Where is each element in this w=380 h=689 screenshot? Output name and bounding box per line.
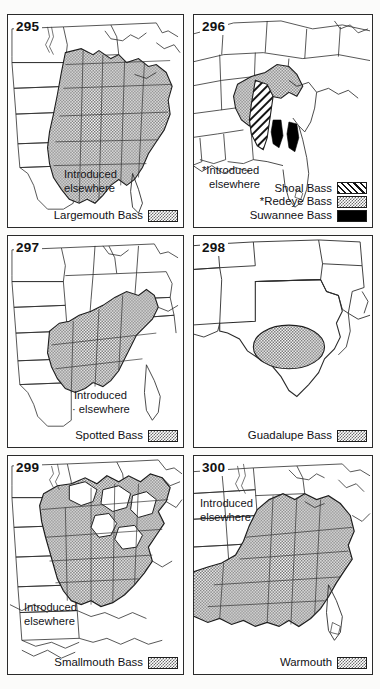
legend-label: Shoal Bass xyxy=(274,182,332,195)
panel-number: 299 xyxy=(14,460,42,476)
legend-label: Smallmouth Bass xyxy=(54,656,143,669)
legend-label: Largemouth Bass xyxy=(54,209,143,222)
introduced-line-2: elsewhere xyxy=(24,614,77,628)
introduced-line-1: Introduced xyxy=(72,388,130,402)
legend-label: Spotted Bass xyxy=(75,429,143,442)
legend-row: Spotted Bass xyxy=(75,429,178,442)
panel-number: 297 xyxy=(14,240,42,256)
legend-swatch-stipple xyxy=(148,210,178,222)
introduced-line-1: Introduced xyxy=(24,600,77,614)
panel-number: 296 xyxy=(200,19,228,35)
legend: Largemouth Bass xyxy=(54,209,178,222)
legend-row: Largemouth Bass xyxy=(54,209,178,222)
map-panel-298[interactable]: 298 Guadalupe Bass xyxy=(193,235,373,448)
legend-row: Shoal Bass xyxy=(274,182,367,195)
introduced-note: Introduced elsewhere xyxy=(24,600,77,629)
panel-number: 295 xyxy=(14,19,42,35)
introduced-note: Introduced elsewhere xyxy=(200,496,253,525)
legend-row: Warmouth xyxy=(280,656,367,669)
introduced-line-1: Introduced xyxy=(64,167,117,181)
legend: Guadalupe Bass xyxy=(248,429,367,442)
map-panel-299[interactable]: 299 Introduced elsewhere Smallmouth Bass xyxy=(7,455,184,675)
legend-swatch-hatch xyxy=(337,182,367,194)
legend-label: *Redeye Bass xyxy=(260,195,332,208)
legend: Shoal Bass *Redeye Bass Suwannee Bass xyxy=(250,182,367,222)
legend-row: *Redeye Bass xyxy=(260,195,367,208)
map-panel-300[interactable]: 300 Introduced elsewhere Warmouth xyxy=(193,455,373,675)
legend-swatch-stipple xyxy=(148,657,178,669)
legend-swatch-stipple xyxy=(337,657,367,669)
legend-swatch-stipple xyxy=(148,430,178,442)
map-298-graphic xyxy=(194,236,372,447)
map-panel-295[interactable]: 295 Introduced elsewhere Largemouth Bass xyxy=(7,14,184,228)
panel-number: 298 xyxy=(200,240,228,256)
legend-row: Suwannee Bass xyxy=(250,209,367,222)
introduced-note: Introduced · elsewhere xyxy=(72,388,130,417)
legend-label: Warmouth xyxy=(280,656,332,669)
legend-swatch-stipple xyxy=(337,430,367,442)
map-300-graphic xyxy=(194,456,372,674)
legend: Smallmouth Bass xyxy=(54,656,178,669)
introduced-line-2: elsewhere xyxy=(200,510,253,524)
legend: Spotted Bass xyxy=(75,429,178,442)
introduced-note: Introduced elsewhere xyxy=(64,167,117,196)
legend-row: Smallmouth Bass xyxy=(54,656,178,669)
legend: Warmouth xyxy=(280,656,367,669)
legend-row: Guadalupe Bass xyxy=(248,429,367,442)
map-panel-296[interactable]: 296 *Introduced elsewhere Shoal Bass *Re… xyxy=(193,14,373,228)
introduced-line-1: *Introduced xyxy=(202,163,260,177)
figure-page: 295 Introduced elsewhere Largemouth Bass xyxy=(0,0,380,689)
map-299-graphic xyxy=(8,456,183,674)
introduced-line-2: · elsewhere xyxy=(72,402,130,416)
introduced-line-2: elsewhere xyxy=(64,181,117,195)
legend-swatch-solid xyxy=(337,210,367,222)
legend-label: Guadalupe Bass xyxy=(248,429,332,442)
legend-swatch-stipple xyxy=(337,196,367,208)
introduced-line-1: Introduced xyxy=(200,496,253,510)
panel-number: 300 xyxy=(200,460,228,476)
map-panel-297[interactable]: 297 Introduced · elsewhere Spotted Bass xyxy=(7,235,184,448)
legend-label: Suwannee Bass xyxy=(250,209,332,222)
